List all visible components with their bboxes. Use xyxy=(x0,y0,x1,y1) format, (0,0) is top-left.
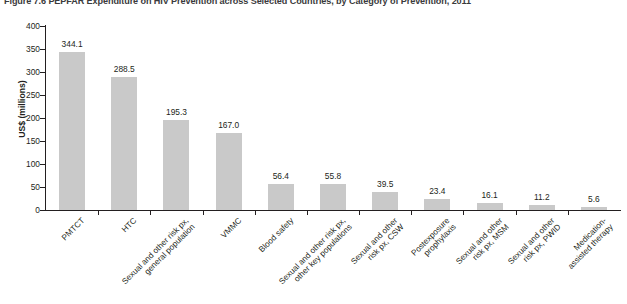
bar-chart: US$ (millions) 050100150200250300350400 … xyxy=(0,0,627,304)
y-axis-tick-label: 250 xyxy=(6,91,40,99)
y-axis-tick-label: 300 xyxy=(6,68,40,76)
bar[interactable] xyxy=(424,199,450,210)
bar[interactable] xyxy=(268,184,294,210)
x-axis-tick xyxy=(411,211,412,215)
bar[interactable] xyxy=(163,120,189,210)
bar-value-label: 16.1 xyxy=(460,191,520,200)
x-axis-tick xyxy=(307,211,308,215)
bar[interactable] xyxy=(529,205,555,210)
y-axis-tick-label: 50 xyxy=(6,183,40,191)
plot-area xyxy=(46,26,620,210)
bar[interactable] xyxy=(216,133,242,210)
y-axis-tick xyxy=(40,164,45,165)
bar-value-label: 5.6 xyxy=(564,195,624,204)
x-axis-tick xyxy=(255,211,256,215)
bar-value-label: 55.8 xyxy=(303,172,363,181)
y-axis-tick xyxy=(40,26,45,27)
x-axis-tick xyxy=(98,211,99,215)
y-axis-tick-label: 200 xyxy=(6,114,40,122)
y-axis-tick-label: 400 xyxy=(6,22,40,30)
x-axis-tick xyxy=(203,211,204,215)
x-axis-tick xyxy=(150,211,151,215)
y-axis-tick-label: 150 xyxy=(6,137,40,145)
y-axis-tick xyxy=(40,72,45,73)
y-axis-tick xyxy=(40,95,45,96)
bar[interactable] xyxy=(372,192,398,210)
bar[interactable] xyxy=(111,77,137,210)
x-axis-line xyxy=(45,210,621,211)
y-axis-labels: 050100150200250300350400 xyxy=(0,0,40,304)
x-axis-tick xyxy=(463,211,464,215)
y-axis-tick xyxy=(40,141,45,142)
x-axis-tick xyxy=(359,211,360,215)
bar-value-label: 195.3 xyxy=(146,108,206,117)
bar-value-label: 56.4 xyxy=(251,172,311,181)
x-axis-tick xyxy=(516,211,517,215)
y-axis-tick-label: 350 xyxy=(6,45,40,53)
y-axis-tick-label: 0 xyxy=(6,206,40,214)
y-axis-tick xyxy=(40,49,45,50)
bar[interactable] xyxy=(320,184,346,210)
bar-value-label: 288.5 xyxy=(94,65,154,74)
y-axis-tick-label: 100 xyxy=(6,160,40,168)
x-axis-tick xyxy=(568,211,569,215)
bar-value-label: 11.2 xyxy=(512,193,572,202)
bar-value-label: 39.5 xyxy=(355,180,415,189)
bar-value-label: 23.4 xyxy=(407,187,467,196)
bar-value-label: 167.0 xyxy=(199,121,259,130)
bar[interactable] xyxy=(477,203,503,210)
y-axis-tick xyxy=(40,210,45,211)
bar[interactable] xyxy=(59,52,85,210)
y-axis-tick xyxy=(40,118,45,119)
bar-value-label: 344.1 xyxy=(42,40,102,49)
bar[interactable] xyxy=(581,207,607,210)
y-axis-tick xyxy=(40,187,45,188)
